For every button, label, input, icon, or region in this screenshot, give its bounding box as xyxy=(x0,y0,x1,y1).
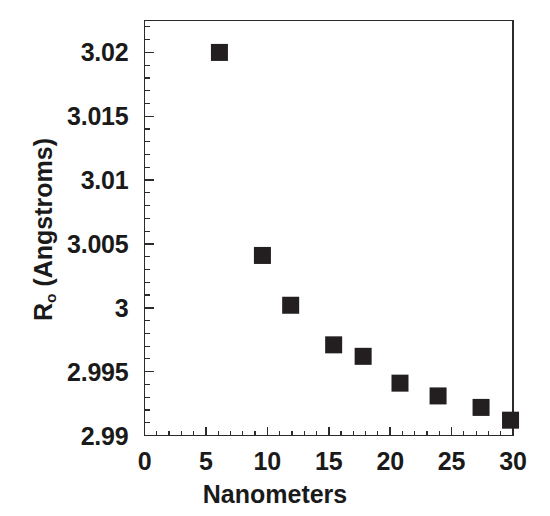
figure-canvas: 2.992.99533.0053.013.0153.02 05101520253… xyxy=(0,0,550,516)
x-axis-title: Nanometers xyxy=(0,480,550,509)
data-point xyxy=(430,387,447,404)
x-tick-label: 10 xyxy=(254,447,281,476)
y-tick-label: 3.015 xyxy=(0,102,129,131)
data-point xyxy=(355,348,372,365)
axes-frame-path xyxy=(145,21,514,436)
x-tick-label: 0 xyxy=(138,447,152,476)
y-axis-title-tail: (Angstroms) xyxy=(29,138,57,294)
y-tick-label: 3.005 xyxy=(0,229,129,258)
data-point xyxy=(254,247,271,264)
x-tick-label: 30 xyxy=(499,447,526,476)
data-point xyxy=(502,412,519,429)
data-point xyxy=(282,297,299,314)
data-markers xyxy=(211,44,519,429)
x-axis-ticks xyxy=(145,427,514,436)
y-tick-label: 3 xyxy=(0,293,129,322)
y-axis-ticks xyxy=(145,27,154,436)
axes-frame xyxy=(145,21,514,436)
y-tick-label: 3.02 xyxy=(0,38,129,67)
data-point xyxy=(391,375,408,392)
data-point xyxy=(473,399,490,416)
data-point xyxy=(211,44,228,61)
y-tick-label: 2.995 xyxy=(0,357,129,386)
x-tick-label: 25 xyxy=(438,447,465,476)
y-tick-label: 2.99 xyxy=(0,421,129,450)
x-tick-label: 15 xyxy=(315,447,342,476)
x-tick-label: 5 xyxy=(199,447,213,476)
data-point xyxy=(325,336,342,353)
y-axis-title-subscript: o xyxy=(42,294,59,303)
y-axis-title: Ro (Angstroms) xyxy=(29,100,58,360)
y-axis-title-base: R xyxy=(29,303,57,321)
y-tick-label: 3.01 xyxy=(0,166,129,195)
x-tick-label: 20 xyxy=(376,447,403,476)
